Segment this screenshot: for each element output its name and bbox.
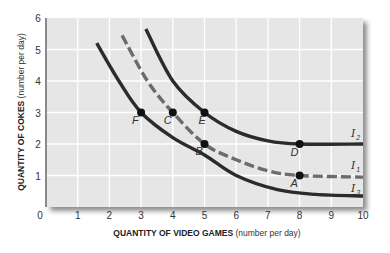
x-tick-label: 3 bbox=[138, 210, 144, 221]
x-tick-label: 1 bbox=[75, 210, 81, 221]
point-label-e: E bbox=[199, 114, 207, 126]
x-tick-label: 10 bbox=[357, 210, 369, 221]
y-tick-label: 5 bbox=[35, 45, 41, 56]
point-label-c: C bbox=[164, 114, 172, 126]
y-axis-title: QUANTITY OF COKES (number per day) bbox=[16, 33, 26, 191]
x-tick-label: 5 bbox=[202, 210, 208, 221]
y-tick-label: 3 bbox=[35, 108, 41, 119]
point-label-b: B bbox=[196, 145, 203, 157]
y-tick-label: 2 bbox=[35, 139, 41, 150]
x-tick-label: 9 bbox=[329, 210, 335, 221]
point-label-d: D bbox=[291, 146, 299, 158]
x-axis-title: QUANTITY OF VIDEO GAMES (number per day) bbox=[113, 228, 301, 238]
y-axis-ticks: 123456 bbox=[35, 13, 41, 182]
x-tick-label: 0 bbox=[37, 210, 43, 221]
x-tick-label: 2 bbox=[107, 210, 113, 221]
x-axis-ticks: 012345678910 bbox=[37, 210, 369, 221]
x-tick-label: 4 bbox=[170, 210, 176, 221]
y-tick-label: 4 bbox=[35, 76, 41, 87]
point-label-a: A bbox=[290, 177, 298, 189]
y-tick-label: 6 bbox=[35, 13, 41, 24]
x-tick-label: 6 bbox=[233, 210, 239, 221]
x-tick-label: 8 bbox=[297, 210, 303, 221]
x-tick-label: 7 bbox=[265, 210, 271, 221]
indifference-curve-chart: 012345678910 123456 FCEBDA I2I1I3 QUANTI… bbox=[0, 0, 390, 253]
y-tick-label: 1 bbox=[35, 171, 41, 182]
